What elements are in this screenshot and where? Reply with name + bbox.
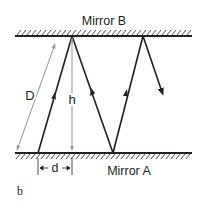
mirror-a-hatching bbox=[16, 154, 190, 159]
mirror-b-label: Mirror B bbox=[82, 14, 126, 28]
ray-segment-3 bbox=[113, 36, 143, 153]
panel-label: b bbox=[17, 184, 23, 198]
label-h: h bbox=[68, 92, 75, 107]
mirror-b bbox=[15, 30, 192, 36]
mirror-b-hatching bbox=[17, 30, 191, 35]
mirror-a bbox=[15, 153, 192, 159]
mirror-a-label: Mirror A bbox=[107, 164, 151, 178]
label-D: D bbox=[25, 88, 34, 103]
ray-segment-4 bbox=[143, 36, 162, 92]
dimension-D-arrow bbox=[17, 44, 55, 150]
light-ray-path bbox=[38, 36, 162, 153]
mirror-reflection-diagram: Mirror B Mirror A D h d b bbox=[0, 0, 202, 207]
label-d: d bbox=[52, 161, 59, 175]
ray-direction-arrows bbox=[51, 88, 128, 100]
arrow-up-icon bbox=[123, 89, 128, 97]
